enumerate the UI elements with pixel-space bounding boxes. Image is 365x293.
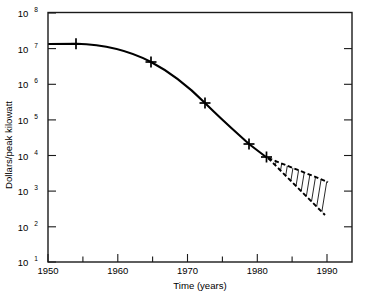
x-tick-label-1960: 1960 xyxy=(107,265,128,276)
y-tick-mantissa: 10 xyxy=(18,257,29,268)
chart-canvas: 10 8 10 7 10 6 10 5 10 4 10 3 xyxy=(0,0,365,293)
data-point-markers xyxy=(71,38,273,162)
data-point-marker xyxy=(146,57,157,68)
y-tick-exponent: 8 xyxy=(34,6,38,13)
y-tick-mantissa: 10 xyxy=(18,151,29,162)
y-tick-label-1e8: 10 8 xyxy=(18,6,38,19)
y-tick-mantissa: 10 xyxy=(18,115,29,126)
x-tick-label-1950: 1950 xyxy=(37,265,58,276)
x-axis-title: Time (years) xyxy=(173,280,226,291)
x-axis-ticks xyxy=(48,254,327,262)
y-tick-mantissa: 10 xyxy=(18,222,29,233)
y-tick-label-1e3: 10 3 xyxy=(18,184,38,197)
y-tick-mantissa: 10 xyxy=(18,44,29,55)
figure-root: 10 8 10 7 10 6 10 5 10 4 10 3 xyxy=(0,0,365,293)
y-tick-exponent: 1 xyxy=(34,255,38,262)
y-tick-mantissa: 10 xyxy=(18,186,29,197)
y-axis-ticks-right xyxy=(344,49,352,227)
y-tick-exponent: 6 xyxy=(34,77,38,84)
y-tick-exponent: 7 xyxy=(34,42,38,49)
y-tick-exponent: 3 xyxy=(34,184,38,191)
y-tick-label-1e4: 10 4 xyxy=(18,149,38,162)
projection-uncertainty-wedge xyxy=(248,100,358,260)
y-tick-exponent: 5 xyxy=(34,113,38,120)
plot-frame xyxy=(48,13,352,263)
y-tick-exponent: 4 xyxy=(34,149,38,156)
wedge-hatching xyxy=(248,100,358,260)
x-tick-label-1990: 1990 xyxy=(316,265,337,276)
y-tick-mantissa: 10 xyxy=(18,8,29,19)
y-tick-label-1e6: 10 6 xyxy=(18,77,38,90)
y-axis-ticks-left xyxy=(48,13,56,262)
x-axis-tick-labels: 1950 1960 1970 1980 1990 xyxy=(37,265,337,276)
y-tick-label-1e5: 10 5 xyxy=(18,113,38,126)
y-tick-label-1e7: 10 7 xyxy=(18,42,38,55)
y-axis-tick-labels: 10 8 10 7 10 6 10 5 10 4 10 3 xyxy=(18,6,38,268)
historical-cost-curve xyxy=(49,44,266,157)
projection-upper-bound xyxy=(268,158,328,182)
y-axis-title: Dollars/peak kilowatt xyxy=(3,101,14,189)
y-tick-exponent: 2 xyxy=(34,220,38,227)
y-tick-label-1e2: 10 2 xyxy=(18,220,38,233)
x-tick-label-1970: 1970 xyxy=(177,265,198,276)
data-point-marker xyxy=(71,38,82,49)
y-tick-label-1e1: 10 1 xyxy=(18,255,38,268)
x-tick-label-1980: 1980 xyxy=(247,265,268,276)
y-tick-mantissa: 10 xyxy=(18,79,29,90)
